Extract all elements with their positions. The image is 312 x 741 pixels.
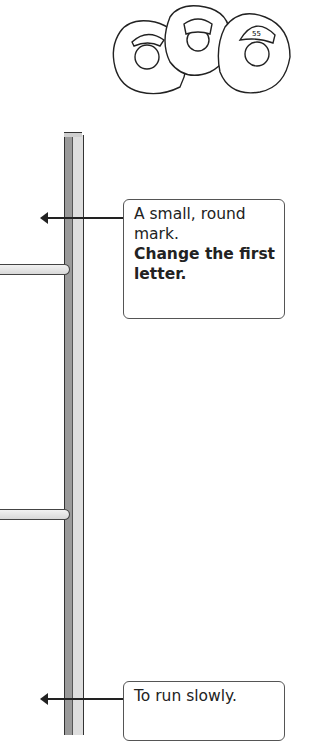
ladder-rung xyxy=(0,509,70,520)
clue-box: A small, round mark. Change the first le… xyxy=(123,199,285,319)
svg-text:55: 55 xyxy=(252,30,261,38)
arrow-left-icon xyxy=(46,217,124,219)
clue-instruction: Change the first letter. xyxy=(134,244,276,284)
ladder-rung xyxy=(0,264,70,275)
ladder-pole xyxy=(64,135,82,735)
clue-box: To run slowly. xyxy=(123,681,285,741)
community-helpers-illustration: 55 xyxy=(100,2,300,102)
clue-text: A small, round mark. xyxy=(134,205,246,243)
clue-text: To run slowly. xyxy=(134,687,237,705)
arrow-left-icon xyxy=(46,698,124,700)
